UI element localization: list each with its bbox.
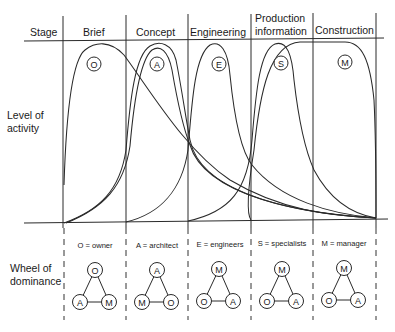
svg-text:A: A [230, 297, 236, 307]
svg-text:O: O [91, 266, 98, 276]
key-engineers: E = engineers [196, 240, 243, 249]
svg-text:O: O [263, 297, 270, 307]
curve-architect-inner [66, 48, 376, 223]
y-axis-label-line1: Level of [7, 109, 44, 121]
stage-brief: Brief [83, 26, 105, 38]
svg-text:M: M [340, 264, 348, 274]
curve-label-m: M [341, 58, 349, 68]
wheel-triangle-4: M O A [260, 262, 304, 309]
svg-text:A: A [154, 266, 160, 276]
wheel-triangle-5: M O A [322, 261, 366, 308]
stage-production-line1: Production [255, 12, 305, 24]
curve-label-o: O [90, 60, 97, 70]
wheel-triangle-2: A M O [135, 263, 179, 310]
svg-text:A: A [355, 296, 361, 306]
svg-text:O: O [325, 296, 332, 306]
svg-text:M: M [105, 298, 113, 308]
svg-text:M: M [278, 265, 286, 275]
key-manager: M = manager [322, 239, 367, 248]
wheel-label-line2: dominance [10, 275, 62, 287]
stage-construction: Construction [315, 24, 374, 36]
svg-text:A: A [77, 298, 83, 308]
svg-text:O: O [167, 298, 174, 308]
key-specialists: S = specialists [258, 239, 307, 248]
key-owner: O = owner [77, 241, 113, 250]
curve-label-e: E [216, 60, 222, 70]
stage-engineering: Engineering [190, 26, 246, 38]
stage-label: Stage [30, 26, 58, 38]
curve-label-s: S [278, 59, 284, 69]
curve-label-a: A [154, 60, 160, 70]
stage-production-line2: information [255, 25, 307, 37]
wheel-label-line1: Wheel of [10, 262, 52, 274]
wheel-triangle-3: M O A [197, 262, 241, 309]
key-architect: A = architect [136, 241, 179, 250]
svg-text:M: M [215, 265, 223, 275]
svg-text:M: M [138, 298, 146, 308]
svg-text:O: O [200, 297, 207, 307]
stage-concept: Concept [136, 26, 175, 38]
svg-text:A: A [293, 297, 299, 307]
wheel-triangle-1: O A M [73, 263, 117, 310]
x-axis-baseline [24, 219, 388, 223]
y-axis-label-line2: activity [7, 122, 40, 134]
curve-labels: O A E S M [87, 55, 352, 71]
header-divider [24, 38, 384, 41]
activity-diagram: Stage Brief Concept Engineering Producti… [0, 0, 395, 332]
curve-manager [248, 42, 376, 220]
